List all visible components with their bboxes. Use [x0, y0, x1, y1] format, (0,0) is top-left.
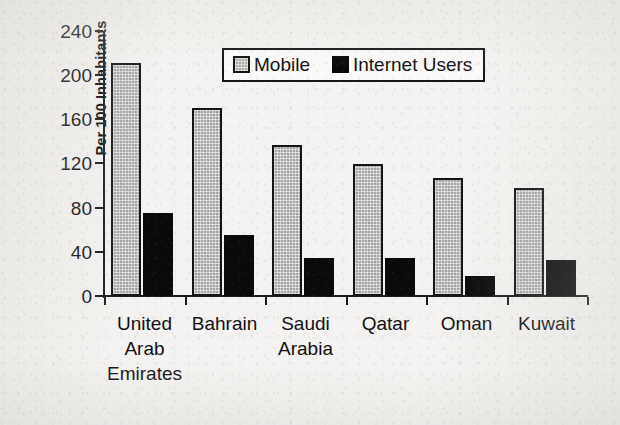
bar-internet-users-oman[interactable] — [465, 276, 495, 296]
x-tick-mark-6 — [587, 297, 589, 305]
y-tick-mark-120 — [95, 162, 103, 164]
y-tick-mark-200 — [95, 74, 103, 76]
legend-label-mobile: Mobile — [254, 55, 310, 74]
y-tick-label-80: 80 — [46, 199, 92, 218]
y-tick-mark-240 — [95, 30, 103, 32]
x-tick-mark-1 — [185, 297, 187, 305]
x-tick-mark-4 — [426, 297, 428, 305]
x-tick-mark-3 — [346, 297, 348, 305]
y-tick-label-120: 120 — [46, 154, 92, 173]
y-tick-mark-80 — [95, 207, 103, 209]
bar-mobile-kuwait[interactable] — [514, 188, 544, 296]
x-category-label-kuwait: Kuwait — [498, 311, 595, 336]
bar-internet-users-united-arab-emirates[interactable] — [143, 213, 173, 296]
bar-mobile-qatar[interactable] — [353, 164, 383, 296]
y-tick-label-200: 200 — [46, 66, 92, 85]
bar-mobile-saudi-arabia[interactable] — [272, 145, 302, 296]
bar-internet-users-qatar[interactable] — [385, 258, 415, 296]
bar-chart-figure: Per 100 Inhabitants 240 200 160 120 80 4… — [0, 0, 620, 425]
bar-internet-users-saudi-arabia[interactable] — [304, 258, 334, 296]
bar-internet-users-kuwait[interactable] — [546, 260, 576, 296]
y-tick-label-240: 240 — [46, 22, 92, 41]
y-tick-label-40: 40 — [46, 243, 92, 262]
bar-group-kuwait — [507, 31, 588, 296]
legend-label-internet-users: Internet Users — [353, 55, 472, 74]
bar-group-united-arab-emirates — [104, 31, 185, 296]
mobile-swatch-icon — [233, 56, 250, 73]
legend-entry-internet-users[interactable]: Internet Users — [332, 55, 472, 74]
bar-internet-users-bahrain[interactable] — [224, 235, 254, 296]
y-tick-label-0: 0 — [46, 287, 92, 306]
y-tick-mark-160 — [95, 118, 103, 120]
chart-legend: Mobile Internet Users — [222, 48, 485, 82]
y-tick-label-160: 160 — [46, 110, 92, 129]
legend-entry-mobile[interactable]: Mobile — [233, 55, 310, 74]
x-tick-mark-2 — [265, 297, 267, 305]
bar-mobile-bahrain[interactable] — [192, 108, 222, 296]
internet-users-swatch-icon — [332, 56, 349, 73]
y-tick-mark-40 — [95, 251, 103, 253]
x-tick-mark-0 — [104, 297, 106, 305]
x-tick-mark-5 — [507, 297, 509, 305]
bar-mobile-united-arab-emirates[interactable] — [111, 63, 141, 296]
bar-mobile-oman[interactable] — [433, 178, 463, 296]
